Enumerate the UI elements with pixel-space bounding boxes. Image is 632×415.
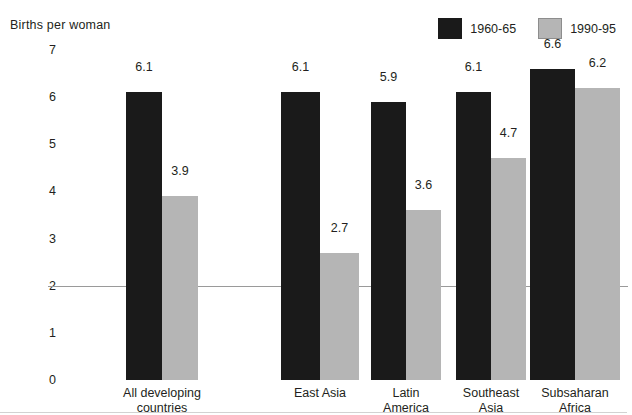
bar-value-label: 5.9	[371, 70, 406, 84]
bar-series-1[interactable]	[371, 102, 406, 380]
bar-value-label: 3.6	[406, 178, 441, 192]
y-axis-tick-label: 4	[38, 185, 56, 198]
legend-item-1960-65: 1960-65	[438, 18, 516, 39]
legend-item-1990-95: 1990-95	[538, 18, 616, 39]
x-axis-category-label: Subsaharan Africa	[512, 380, 632, 415]
bar-series-1[interactable]	[456, 92, 491, 380]
x-axis-category-label: All developing countries	[108, 380, 216, 415]
y-axis-tick-label: 1	[38, 327, 56, 340]
legend-label: 1960-65	[470, 22, 516, 36]
bar-group: 6.66.2Subsaharan Africa	[530, 50, 620, 380]
page-title: Births per woman	[10, 18, 110, 32]
legend-swatch-icon	[538, 18, 562, 39]
y-axis-tick-label: 6	[38, 91, 56, 104]
bar-series-2[interactable]	[162, 196, 198, 380]
y-axis-tick-label: 3	[38, 232, 56, 245]
bar-value-label: 4.7	[491, 126, 526, 140]
bar-series-1[interactable]	[126, 92, 162, 380]
bar-series-2[interactable]	[320, 253, 359, 380]
bar-value-label: 3.9	[162, 164, 198, 178]
bar-group: 6.13.9All developing countries	[126, 50, 198, 380]
bar-value-label: 6.2	[575, 56, 620, 70]
y-axis-tick-label: 7	[38, 44, 56, 57]
bar-group: 6.14.7Southeast Asia	[456, 50, 526, 380]
bar-series-2[interactable]	[491, 158, 526, 380]
bar-series-1[interactable]	[530, 69, 575, 380]
bar-series-1[interactable]	[281, 92, 320, 380]
legend-label: 1990-95	[570, 22, 616, 36]
bars-layer: 6.13.9All developing countries6.12.7East…	[60, 50, 620, 380]
bar-value-label: 6.6	[530, 37, 575, 51]
plot-area: 01234567 6.13.9All developing countries6…	[60, 50, 620, 380]
y-axis-tick-label: 5	[38, 138, 56, 151]
bar-series-2[interactable]	[406, 210, 441, 380]
bar-value-label: 2.7	[320, 221, 359, 235]
bar-series-2[interactable]	[575, 88, 620, 380]
bar-value-label: 6.1	[281, 60, 320, 74]
bottom-divider	[0, 412, 627, 413]
legend-swatch-icon	[438, 18, 462, 39]
bar-value-label: 6.1	[456, 60, 491, 74]
bar-group: 6.12.7East Asia	[281, 50, 359, 380]
chart-legend: 1960-65 1990-95	[438, 18, 616, 39]
bar-value-label: 6.1	[126, 60, 162, 74]
bar-group: 5.93.6Latin America	[371, 50, 441, 380]
y-axis-tick-label: 0	[38, 374, 56, 387]
